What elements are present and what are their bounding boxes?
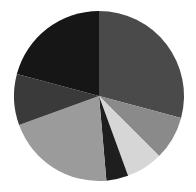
pie-chart-canvas xyxy=(0,0,196,192)
pie-slices-group xyxy=(14,11,184,181)
pie-chart-figure xyxy=(0,0,196,192)
